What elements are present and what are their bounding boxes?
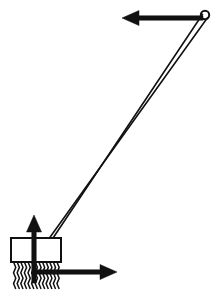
broom-diagram (0, 0, 223, 295)
figure-canvas: Broom with applied force vectors Line dr… (0, 0, 223, 295)
